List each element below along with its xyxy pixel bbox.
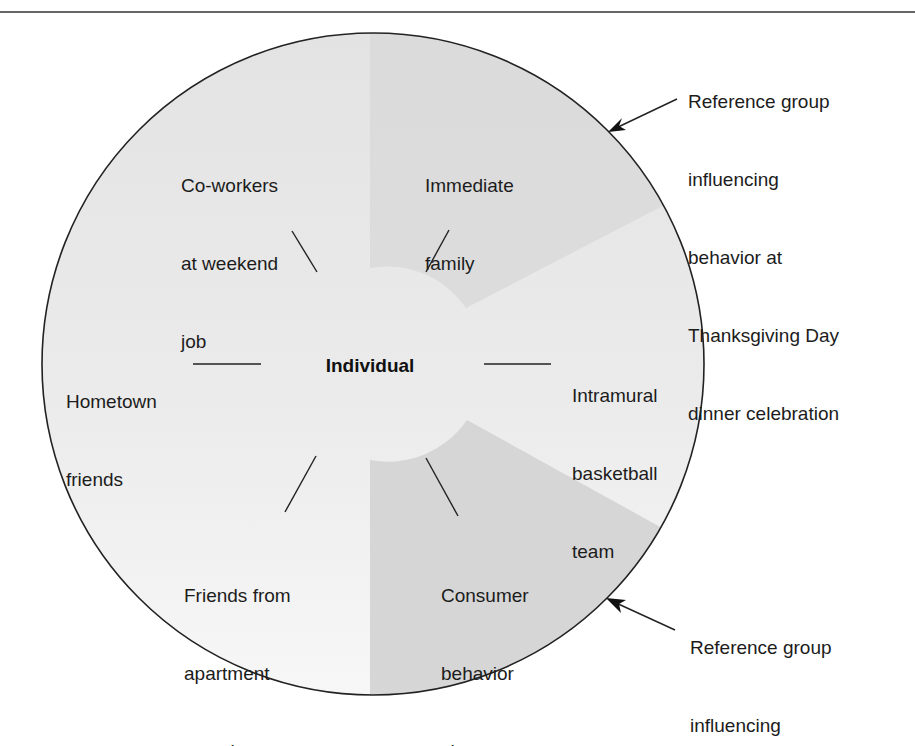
label-line: Intramural xyxy=(572,383,658,409)
label-line: Hometown xyxy=(66,389,157,415)
label-line: at weekend xyxy=(181,251,278,277)
group-label-intramural: Intramural basketball team xyxy=(572,331,658,591)
annotation-thanksgiving: Reference group influencing behavior at … xyxy=(688,37,839,453)
annotation-line: Reference group xyxy=(690,635,841,661)
group-label-apartment: Friends from apartment complex xyxy=(184,531,291,746)
label-line: classmates xyxy=(441,739,536,746)
annotation-line: Reference group xyxy=(688,89,839,115)
annotation-line: influencing xyxy=(690,713,841,739)
group-label-family: Immediate family xyxy=(425,121,514,303)
label-line: Consumer xyxy=(441,583,536,609)
group-label-hometown: Hometown friends xyxy=(66,337,157,519)
annotation-line: dinner celebration xyxy=(688,401,839,427)
label-line: Friends from xyxy=(184,583,291,609)
individual-label: Individual xyxy=(326,353,415,379)
group-label-coworkers: Co-workers at weekend job xyxy=(181,121,278,381)
group-label-classmates: Consumer behavior classmates xyxy=(441,531,536,746)
label-line: basketball xyxy=(572,461,658,487)
label-line: team xyxy=(572,539,658,565)
annotation-line: behavior at xyxy=(688,245,839,271)
label-line: Immediate xyxy=(425,173,514,199)
annotation-final-exam: Reference group influencing behavior at … xyxy=(690,583,841,746)
label-line: apartment xyxy=(184,661,291,687)
label-line: behavior xyxy=(441,661,536,687)
label-line: complex xyxy=(184,739,291,746)
annotation-line: Thanksgiving Day xyxy=(688,323,839,349)
label-line: friends xyxy=(66,467,157,493)
arrow-thanksgiving xyxy=(608,99,677,132)
label-line: job xyxy=(181,329,278,355)
label-line: family xyxy=(425,251,514,277)
arrow-final-exam xyxy=(606,598,675,630)
label-line: Co-workers xyxy=(181,173,278,199)
annotation-line: influencing xyxy=(688,167,839,193)
